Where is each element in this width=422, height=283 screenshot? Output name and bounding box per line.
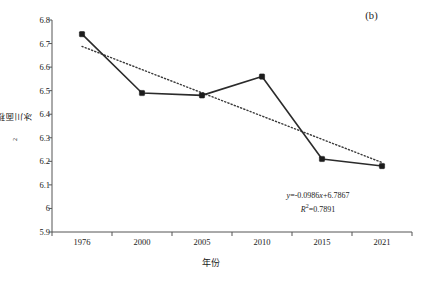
regression-equation: y=-0.0986x+6.7867 xyxy=(258,190,378,201)
equation-body: =-0.0986 xyxy=(290,191,319,200)
trendline-series xyxy=(82,46,382,162)
regression-annotation: y=-0.0986x+6.7867 R2=0.7891 xyxy=(258,190,378,215)
equation-suffix: +6.7867 xyxy=(323,191,350,200)
plot-area xyxy=(0,0,422,283)
chart-figure: (b) 冰川面积/km2 6.86.76.66.56.46.36.26.165.… xyxy=(0,0,422,283)
data-series-line xyxy=(82,34,382,166)
r-squared-number: =0.7891 xyxy=(309,205,336,214)
data-series-markers xyxy=(79,32,384,169)
r-squared-value: R2=0.7891 xyxy=(258,201,378,215)
x-axis-title: 年份 xyxy=(0,256,422,269)
